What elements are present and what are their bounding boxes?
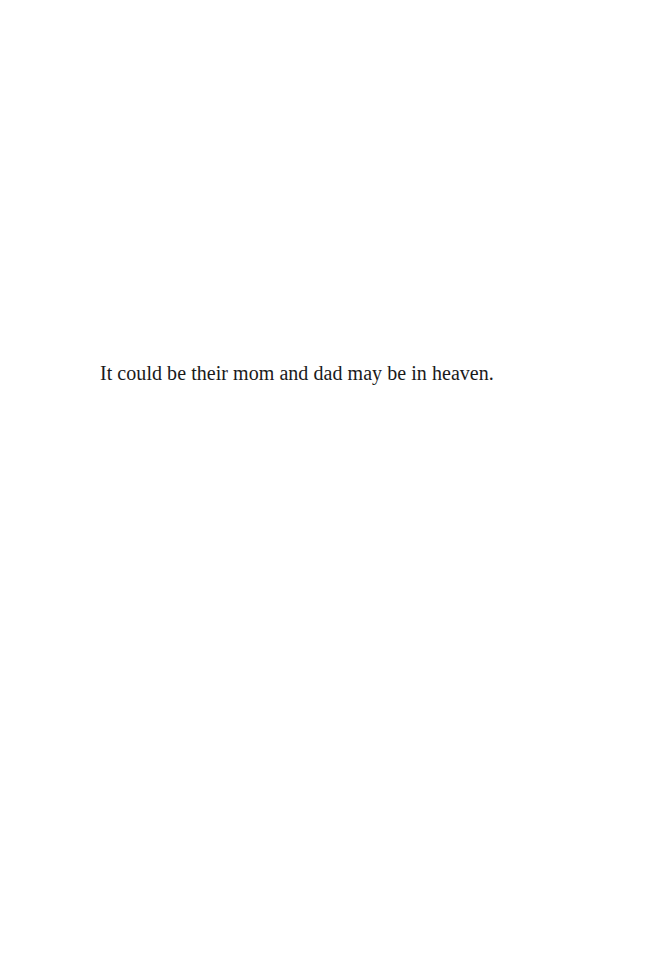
body-text: It could be their mom and dad may be in … <box>100 361 494 385</box>
document-page: It could be their mom and dad may be in … <box>0 0 652 965</box>
